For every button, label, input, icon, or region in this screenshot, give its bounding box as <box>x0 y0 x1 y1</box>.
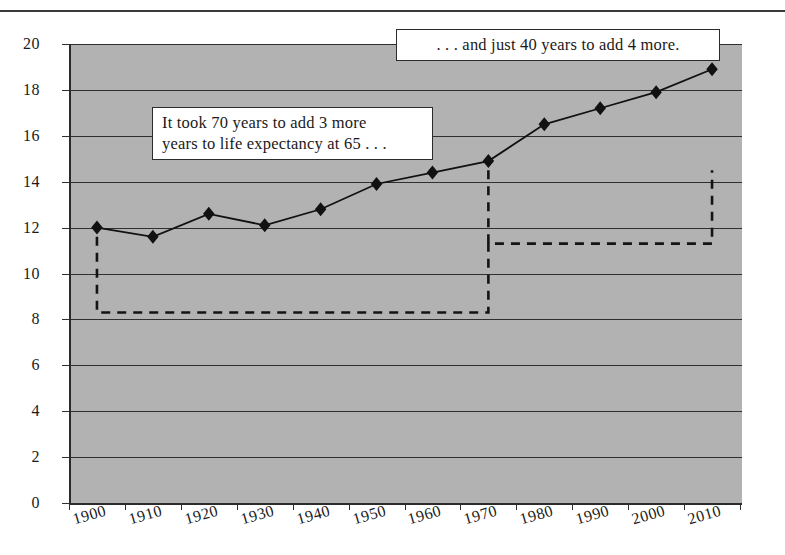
ytick-label-6: 6 <box>0 357 40 373</box>
gridline-y-10 <box>71 274 742 275</box>
xtick-mark-1950 <box>349 503 350 510</box>
xtick-label-1950: 1950 <box>351 503 388 528</box>
xtick-mark-1920 <box>181 503 182 510</box>
xtick-label-1910: 1910 <box>127 503 164 528</box>
xtick-mark-1970 <box>460 503 461 510</box>
xtick-mark-2000 <box>628 503 629 510</box>
xtick-label-2010: 2010 <box>686 503 723 528</box>
ytick-mark-0 <box>62 503 69 504</box>
ytick-mark-14 <box>62 182 69 183</box>
xtick-mark-1960 <box>405 503 406 510</box>
xtick-mark-2010 <box>684 503 685 510</box>
gridline-y-14 <box>71 182 742 183</box>
xtick-label-1970: 1970 <box>462 503 499 528</box>
annotation-callout-second: . . . and just 40 years to add 4 more. <box>396 29 720 61</box>
xtick-mark-1910 <box>125 503 126 510</box>
ytick-label-16: 16 <box>0 128 40 144</box>
ytick-mark-20 <box>62 44 69 45</box>
ytick-label-14: 14 <box>0 174 40 190</box>
annotation-callout-first-line1: It took 70 years to add 3 more <box>162 112 423 133</box>
ytick-mark-16 <box>62 136 69 137</box>
xtick-mark-end <box>740 503 741 510</box>
ytick-mark-4 <box>62 411 69 412</box>
xtick-label-1990: 1990 <box>574 503 611 528</box>
ytick-label-0: 0 <box>0 495 40 511</box>
xtick-label-2000: 2000 <box>630 503 667 528</box>
ytick-label-8: 8 <box>0 311 40 327</box>
ytick-label-20: 20 <box>0 36 40 52</box>
xtick-label-1900: 1900 <box>71 503 108 528</box>
gridline-y-18 <box>71 90 742 91</box>
gridline-y-2 <box>71 457 742 458</box>
xtick-label-1920: 1920 <box>183 503 220 528</box>
xtick-label-1960: 1960 <box>406 503 443 528</box>
gridline-y-4 <box>71 411 742 412</box>
xtick-mark-1990 <box>572 503 573 510</box>
xtick-mark-1900 <box>69 503 70 510</box>
xtick-mark-1980 <box>516 503 517 510</box>
ytick-mark-10 <box>62 274 69 275</box>
ytick-label-4: 4 <box>0 403 40 419</box>
annotation-callout-first-line2: years to life expectancy at 65 . . . <box>162 133 423 154</box>
xtick-label-1930: 1930 <box>239 503 276 528</box>
ytick-mark-2 <box>62 457 69 458</box>
annotation-callout-first: It took 70 years to add 3 more years to … <box>152 107 433 160</box>
ytick-label-10: 10 <box>0 266 40 282</box>
chart-figure: It took 70 years to add 3 more years to … <box>0 0 785 555</box>
annotation-callout-second-line1: . . . and just 40 years to add 4 more. <box>406 34 710 55</box>
ytick-label-18: 18 <box>0 82 40 98</box>
gridline-y-8 <box>71 319 742 320</box>
xtick-label-1940: 1940 <box>295 503 332 528</box>
gridline-y-12 <box>71 228 742 229</box>
xtick-mark-1930 <box>237 503 238 510</box>
xtick-mark-1940 <box>293 503 294 510</box>
ytick-mark-8 <box>62 319 69 320</box>
ytick-label-2: 2 <box>0 449 40 465</box>
ytick-mark-18 <box>62 90 69 91</box>
ytick-mark-6 <box>62 365 69 366</box>
ytick-mark-12 <box>62 228 69 229</box>
gridline-y-6 <box>71 365 742 366</box>
ytick-label-12: 12 <box>0 220 40 236</box>
xtick-label-1980: 1980 <box>518 503 555 528</box>
